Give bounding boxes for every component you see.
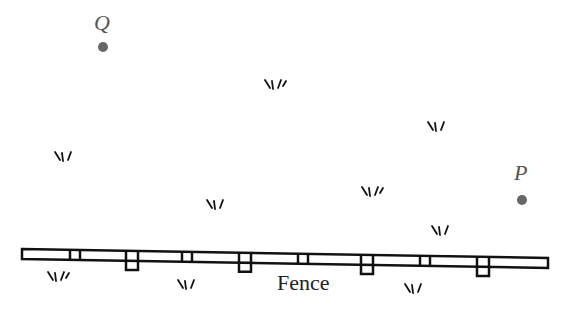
grass-tuft-icon <box>405 284 421 293</box>
grass-tuft-icon <box>428 122 444 131</box>
grass-tuft-icon <box>178 280 194 289</box>
fence-rail <box>22 249 548 268</box>
grass-tuft-icon <box>48 272 69 281</box>
point-label-q: Q <box>94 12 110 34</box>
diagram-canvas <box>0 0 561 312</box>
point-q <box>98 42 108 52</box>
grass-tuft-icon <box>432 226 448 235</box>
grass-tuft-icon <box>265 80 286 89</box>
point-label-p: P <box>514 162 527 184</box>
grass-tuft-icon <box>362 187 383 196</box>
fence-label: Fence <box>277 272 330 294</box>
grass-tuft-icon <box>55 152 71 161</box>
point-p <box>517 195 527 205</box>
points <box>98 42 527 205</box>
grass-tuft-icon <box>207 200 223 209</box>
